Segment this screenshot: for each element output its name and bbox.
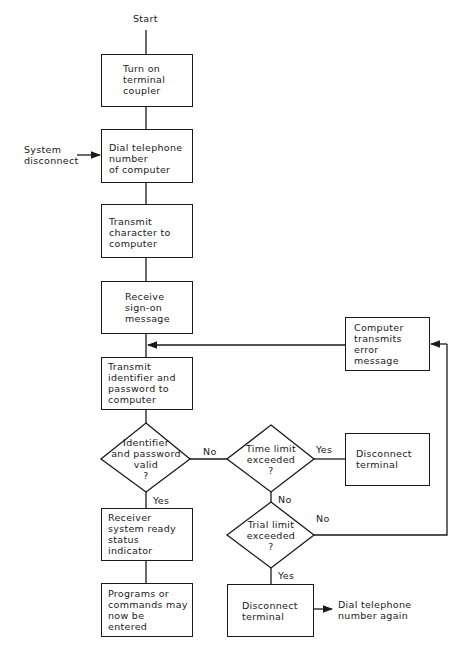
step-dial: Dial telephone number of computer	[101, 129, 193, 183]
decision-valid-no: No	[203, 446, 217, 457]
decision-time-limit-yes: Yes	[316, 444, 332, 455]
decision-valid-text: Identifier and password valid ?	[101, 437, 191, 481]
final-output-label: Dial telephone number again	[338, 599, 411, 621]
step-disconnect-1: Disconnect terminal	[345, 433, 430, 486]
decision-valid-yes: Yes	[153, 495, 169, 506]
step-turn-on: Turn on terminal coupler	[101, 54, 193, 107]
system-disconnect-label: System disconnect	[24, 144, 79, 166]
step-transmit-char: Transmit character to computer	[101, 204, 193, 258]
step-error: Computer transmits error message	[345, 317, 430, 371]
step-transmit-id: Transmit identifier and password to comp…	[101, 357, 193, 410]
decision-trial-limit-no: No	[316, 513, 330, 524]
decision-time-limit-text: Time limit exceeded ?	[227, 443, 315, 476]
start-label: Start	[133, 13, 158, 24]
step-receive-signon: Receive sign-on message	[101, 281, 193, 334]
step-programs: Programs or commands may now be entered	[101, 583, 193, 637]
step-disconnect-2: Disconnect terminal	[227, 584, 314, 637]
decision-trial-limit-text: Trial limit exceeded ?	[227, 519, 315, 552]
step-ready: Receiver system ready status indicator	[101, 508, 193, 561]
decision-trial-limit-yes: Yes	[278, 570, 294, 581]
decision-time-limit-no: No	[278, 494, 292, 505]
